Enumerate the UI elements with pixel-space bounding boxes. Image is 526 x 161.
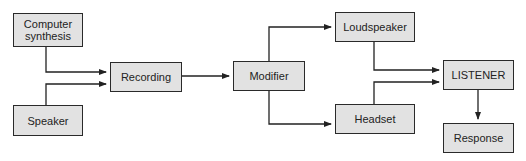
node-headset: Headset (335, 104, 415, 134)
node-response: Response (443, 123, 514, 153)
flow-diagram: Computer synthesis Speaker Recording Mod… (0, 0, 526, 161)
edge-loudspeaker-to-listener (374, 42, 439, 70)
edge-computer-synthesis-to-recording (46, 47, 106, 72)
edge-modifier-to-loudspeaker (269, 27, 331, 61)
node-loudspeaker: Loudspeaker (335, 12, 415, 42)
node-computer-synthesis: Computer synthesis (13, 13, 83, 47)
node-recording: Recording (110, 62, 182, 92)
edge-modifier-to-headset (269, 91, 331, 124)
node-modifier: Modifier (233, 61, 305, 91)
node-speaker: Speaker (13, 105, 83, 136)
node-listener: LISTENER (443, 60, 514, 90)
edge-headset-to-listener (374, 82, 439, 104)
edge-speaker-to-recording (46, 84, 106, 105)
